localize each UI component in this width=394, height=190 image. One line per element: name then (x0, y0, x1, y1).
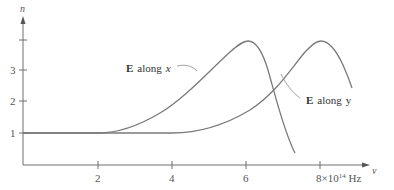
x-tick-label-2: 2 (95, 172, 101, 184)
refractive-index-chart: n ν 1 2 3 2 4 6 8×1014 Hz Ealongx Ealong… (0, 0, 394, 190)
y-tick-label-2: 2 (10, 95, 16, 107)
annotation-e-along-x: Ealongx (126, 62, 171, 74)
y-axis-arrow-icon (21, 16, 26, 24)
x-tick-label-6: 6 (243, 172, 249, 184)
y-ticks: 1 2 3 (10, 40, 27, 139)
y-axis-title: n (20, 3, 25, 14)
curve-e-along-x (23, 41, 295, 153)
y-tick-label-3: 3 (10, 64, 16, 76)
x-ticks: 2 4 6 8×1014 Hz (95, 161, 361, 184)
x-tick-label-8: 8×1014 Hz (316, 172, 361, 184)
annotation-e-along-y: Ealongy (306, 94, 352, 106)
x-axis-arrow-icon (362, 163, 370, 168)
curve-e-along-y (23, 41, 352, 133)
y-tick-label-1: 1 (10, 127, 16, 139)
x-tick-label-4: 4 (169, 172, 175, 184)
leader-line-x (177, 65, 197, 71)
x-axis-title: ν (372, 165, 377, 176)
